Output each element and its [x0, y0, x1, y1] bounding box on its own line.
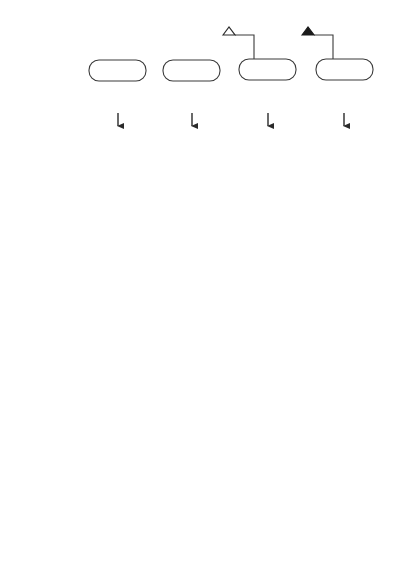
strain-capsule-mutant-3: [239, 59, 296, 80]
strain-capsule-idiotroph: [163, 60, 220, 81]
modified-precursor-triangle-icon: [302, 27, 314, 35]
mutasynthesis-diagram: [0, 0, 399, 588]
strain-capsule-mutant-4: [316, 59, 373, 80]
strain-capsule-original: [89, 60, 146, 81]
precursor-triangle-icon: [223, 27, 235, 35]
